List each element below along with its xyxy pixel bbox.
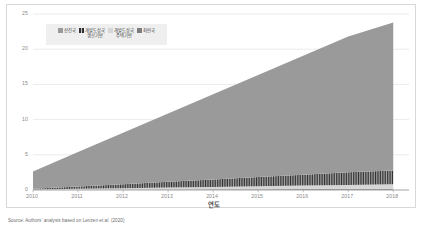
y-axis-tick-label: 15 <box>10 80 28 86</box>
legend-swatch-icon <box>79 28 84 33</box>
x-axis-title: 연도 <box>164 200 264 209</box>
legend-item: 개발도상국 주택기반 <box>108 28 134 38</box>
chart-legend: 선진국개발도상국 생산기반개발도상국 주택기반최빈국 <box>46 24 167 45</box>
legend-item-label: 최빈국 <box>143 28 155 33</box>
legend-item-label: 개발도상국 주택기반 <box>114 28 134 38</box>
y-axis-tick-label: 25 <box>10 10 28 16</box>
legend-item: 개발도상국 생산기반 <box>79 28 105 38</box>
x-axis-tick-label: 2017 <box>332 193 362 199</box>
x-axis-tick-label: 2015 <box>242 193 272 199</box>
x-axis-tick-label: 2014 <box>197 193 227 199</box>
x-axis-tick-label: 2016 <box>287 193 317 199</box>
area-series-group <box>33 23 393 190</box>
x-axis-tick-label: 2012 <box>107 193 137 199</box>
y-axis-tick-label: 10 <box>10 116 28 122</box>
y-axis-tick-label: 5 <box>10 151 28 157</box>
y-axis-tick-label: 0 <box>10 186 28 192</box>
figure-container: 0510152025 20102011201220132014201520162… <box>0 0 422 240</box>
legend-item: 선진국 <box>58 28 76 33</box>
source-caption: Source: Authors' analysis based on Lenze… <box>8 218 125 223</box>
legend-swatch-icon <box>58 28 63 33</box>
x-axis-tick-label: 2010 <box>17 193 47 199</box>
area-series-0 <box>33 23 393 189</box>
legend-item: 최빈국 <box>137 28 155 33</box>
x-axis-tick-label: 2011 <box>62 193 92 199</box>
legend-item-label: 선진국 <box>64 28 76 33</box>
legend-swatch-icon <box>137 28 142 33</box>
x-axis-tick-label: 2018 <box>377 193 407 199</box>
legend-item-label: 개발도상국 생산기반 <box>85 28 105 38</box>
y-axis-tick-label: 20 <box>10 45 28 51</box>
x-axis-tick-label: 2013 <box>152 193 182 199</box>
legend-swatch-icon <box>108 28 113 33</box>
